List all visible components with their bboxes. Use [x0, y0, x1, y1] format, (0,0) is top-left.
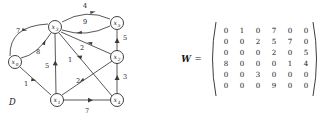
matrix-cell: 0	[256, 59, 261, 68]
matrix-cell: 0	[240, 37, 245, 46]
matrix-cell: 2	[272, 48, 277, 57]
matrix-equals-sign: =	[194, 54, 201, 64]
matrix-cell: 7	[288, 37, 293, 46]
edge-path-x3-x2	[61, 32, 111, 54]
matrix-cell: 0	[256, 26, 261, 35]
edge-weight-x3-x5: 4	[83, 2, 87, 10]
matrix-row: 0 0 0 9 0 0	[224, 81, 309, 90]
edge-weight-x1-x4: 7	[85, 107, 89, 115]
matrix-row: 0 0 2 5 7 0	[224, 37, 309, 46]
matrix-cell: 9	[272, 81, 277, 90]
matrix-cell: 0	[256, 81, 261, 90]
arrowhead-x1-x4	[88, 98, 93, 103]
node-sub-x2: 2	[117, 57, 121, 62]
graph-node-x4[interactable]: x 4	[111, 94, 124, 107]
matrix-cell: 0	[256, 48, 261, 57]
graph-edges	[10, 11, 120, 102]
matrix-row: 0 1 0 7 0 0	[224, 26, 309, 35]
matrix-row: 8 0 0 0 1 4	[224, 59, 309, 68]
matrix-row: 0 0 3 0 0 0	[224, 70, 309, 79]
matrix-cell: 8	[224, 59, 229, 68]
edge-x1-x4	[63, 98, 111, 103]
matrix-cell: 0	[304, 81, 309, 90]
graph-name-label: D	[8, 97, 16, 107]
graph-node-x0[interactable]: x 0	[9, 56, 22, 69]
matrix-cell: 0	[288, 48, 293, 57]
matrix-cell: 0	[224, 37, 229, 46]
edge-weight-x5-x3: 9	[83, 18, 87, 26]
matrix-cell: 1	[240, 26, 245, 35]
edge-weight-x0-x3-outer: 7	[16, 27, 20, 35]
edge-weight-x1-x0: 1	[24, 80, 28, 88]
matrix-cell: 5	[304, 48, 309, 57]
matrix-cell: 0	[224, 48, 229, 57]
matrix-cell: 0	[240, 59, 245, 68]
matrix-name-label: W	[181, 54, 192, 64]
edge-x5-x3	[62, 26, 110, 34]
edge-weight-x2-x4: 3	[123, 73, 127, 81]
matrix-cell: 0	[240, 70, 245, 79]
matrix-block: W = 0 1 0 7 0 0 0 0 2 5 7 0	[181, 22, 316, 96]
matrix-cell: 0	[224, 70, 229, 79]
matrix-cell: 0	[288, 81, 293, 90]
figure-container: 4 9 7 8 5 1 2 1 2 5 3 7 x 0 x 1	[0, 0, 324, 118]
node-sub-x5: 5	[118, 23, 121, 28]
matrix-cell: 2	[256, 37, 261, 46]
edge-weight-x2-x5: 5	[123, 34, 127, 42]
matrix-cell: 4	[304, 59, 309, 68]
edge-x2-x4	[115, 63, 120, 94]
edge-weight-x1-x3: 5	[45, 62, 49, 70]
edge-weight-x3-x2: 2	[80, 44, 84, 52]
weighted-digraph-and-matrix-figure: 4 9 7 8 5 1 2 1 2 5 3 7 x 0 x 1	[0, 0, 324, 118]
matrix-cell: 0	[224, 26, 229, 35]
node-sub-x4: 4	[117, 100, 121, 105]
node-sub-x0: 0	[16, 62, 19, 67]
edge-x3-x2	[61, 32, 111, 54]
arrowhead-x3-x5	[90, 11, 96, 14]
arrowhead-x2-x4	[115, 75, 120, 80]
graph-node-x5[interactable]: x 5	[111, 17, 124, 30]
edge-path-x5-x3	[62, 26, 110, 33]
matrix-left-paren	[213, 22, 217, 96]
matrix-cell: 0	[288, 26, 293, 35]
edge-x2-x5	[115, 30, 120, 51]
graph-node-x3[interactable]: x 3	[49, 21, 62, 34]
graph-node-x1[interactable]: x 1	[51, 94, 64, 107]
matrix-cell: 5	[272, 37, 277, 46]
matrix-cell: 0	[304, 70, 309, 79]
matrix-cell: 0	[272, 70, 277, 79]
matrix-cell: 1	[288, 59, 293, 68]
node-sub-x1: 1	[58, 100, 61, 105]
matrix-cell: 0	[288, 70, 293, 79]
matrix-cell: 3	[256, 70, 261, 79]
matrix-right-paren	[313, 22, 317, 96]
matrix-cell: 7	[272, 26, 277, 35]
edge-weight-x1-x2: 2	[76, 77, 80, 85]
matrix-cell: 0	[240, 48, 245, 57]
matrix-cell: 0	[224, 81, 229, 90]
node-sub-x3: 3	[56, 27, 59, 32]
arrowhead-x1-x3	[53, 61, 58, 66]
matrix-cell: 0	[304, 37, 309, 46]
arrowhead-x3-x4	[77, 56, 83, 60]
matrix-row: 0 0 0 2 0 5	[224, 48, 309, 57]
edge-weight-x0-x3-inner: 8	[36, 48, 40, 56]
edge-weight-x3-x4: 1	[68, 56, 72, 64]
graph-node-x2[interactable]: x 2	[111, 51, 124, 64]
arrowhead-x2-x5	[115, 38, 120, 43]
matrix-cell: 0	[304, 26, 309, 35]
matrix-cell: 0	[240, 81, 245, 90]
matrix-cell: 0	[272, 59, 277, 68]
edge-x1-x3	[53, 34, 58, 94]
